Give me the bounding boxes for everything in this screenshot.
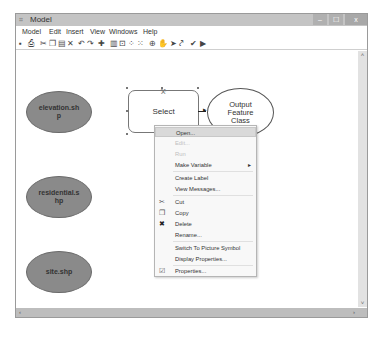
scroll-right-button[interactable]: › xyxy=(353,308,355,317)
model-window: ⌗ Model – ☐ x Model Edit Insert View Win… xyxy=(15,13,368,318)
select-all-icon[interactable]: ⁘ xyxy=(128,38,135,49)
context-menu: Open... Edit... Run Make Variable▸ Creat… xyxy=(154,125,257,277)
tool-hammer-icon: ⚒ xyxy=(160,88,166,96)
select-elements-icon[interactable]: ⁙ xyxy=(137,38,144,49)
delete-icon: ✖ xyxy=(159,220,165,228)
pan-icon[interactable]: ✋ xyxy=(158,38,168,49)
input-residential[interactable]: residential.s hp xyxy=(26,176,92,218)
resize-handle[interactable] xyxy=(126,87,128,89)
auto-layout-icon[interactable]: ▥ xyxy=(110,38,118,49)
full-extent-icon[interactable]: ⊡ xyxy=(119,38,126,49)
undo-icon[interactable]: ↶ xyxy=(78,38,85,49)
menu-item-edit: Edit... xyxy=(155,138,256,148)
minimize-button[interactable]: – xyxy=(313,14,327,25)
menu-item-cut[interactable]: ✂Cut xyxy=(155,197,256,207)
menu-separator xyxy=(173,171,253,172)
menu-item-view-messages[interactable]: View Messages... xyxy=(155,184,256,194)
resize-handle[interactable] xyxy=(126,110,128,112)
menu-item-copy[interactable]: ❐Copy xyxy=(155,208,256,218)
menu-item-run: Run xyxy=(155,149,256,159)
toolbar: ▪ ⎙ ✂ ❐ ▤ ✕ ↶ ↷ ✚ ▥ ⊡ ⁘ ⁙ ⊕ ✋ ➤ ⤤ ✔ ▶ xyxy=(16,38,367,50)
scroll-left-button[interactable]: ‹ xyxy=(19,308,21,317)
properties-icon: ☑ xyxy=(159,267,165,275)
scroll-down-button[interactable]: ˅ xyxy=(358,300,367,306)
select-pointer-icon[interactable]: ➤ xyxy=(170,38,177,49)
horizontal-scrollbar[interactable]: ‹ › xyxy=(16,308,367,317)
maximize-button[interactable]: ☐ xyxy=(329,14,343,25)
menu-edit[interactable]: Edit xyxy=(49,28,61,35)
menu-separator xyxy=(173,241,253,242)
save-icon[interactable]: ▪ xyxy=(19,38,22,49)
copy-icon[interactable]: ❐ xyxy=(49,38,56,49)
menu-separator xyxy=(173,195,253,196)
copy-icon: ❐ xyxy=(159,209,165,217)
menu-item-display-properties[interactable]: Display Properties... xyxy=(155,254,256,264)
close-button[interactable]: x xyxy=(345,14,367,25)
resize-handle[interactable] xyxy=(197,87,199,89)
menu-item-rename[interactable]: Rename... xyxy=(155,230,256,240)
delete-icon[interactable]: ✕ xyxy=(67,38,74,49)
redo-icon[interactable]: ↷ xyxy=(87,38,94,49)
menu-item-open[interactable]: Open... xyxy=(155,127,256,137)
menu-view[interactable]: View xyxy=(90,28,105,35)
window-title: Model xyxy=(30,15,52,24)
menu-item-create-label[interactable]: Create Label xyxy=(155,173,256,183)
add-connection-icon[interactable]: ⤤ xyxy=(179,38,184,49)
scroll-up-button[interactable]: ˄ xyxy=(358,52,367,58)
menu-item-switch-to-picture-symbol[interactable]: Switch To Picture Symbol xyxy=(155,243,256,253)
menu-windows[interactable]: Windows xyxy=(109,28,137,35)
cut-icon[interactable]: ✂ xyxy=(40,38,47,49)
input-site[interactable]: site.shp xyxy=(26,251,92,293)
menu-insert[interactable]: Insert xyxy=(66,28,84,35)
zoom-in-icon[interactable]: ⊕ xyxy=(149,38,156,49)
vertical-scrollbar[interactable]: ˄ ˅ xyxy=(358,51,367,307)
input-elevation[interactable]: elevation.sh p xyxy=(26,91,92,133)
menu-help[interactable]: Help xyxy=(143,28,157,35)
print-icon[interactable]: ⎙ xyxy=(28,38,34,49)
menu-bar: Model Edit Insert View Windows Help xyxy=(16,27,367,37)
title-bar[interactable]: ⌗ Model – ☐ x xyxy=(16,14,367,26)
cut-icon: ✂ xyxy=(159,198,165,206)
validate-icon[interactable]: ✔ xyxy=(190,38,197,49)
model-app-icon: ⌗ xyxy=(19,16,23,24)
paste-icon[interactable]: ▤ xyxy=(58,38,66,49)
menu-item-properties[interactable]: ☑Properties... xyxy=(155,266,256,276)
menu-item-make-variable[interactable]: Make Variable▸ xyxy=(155,160,256,170)
menu-model[interactable]: Model xyxy=(22,28,41,35)
resize-handle[interactable] xyxy=(126,133,128,135)
menu-item-delete[interactable]: ✖Delete xyxy=(155,219,256,229)
submenu-arrow-icon: ▸ xyxy=(248,161,251,168)
run-icon[interactable]: ▶ xyxy=(200,38,206,49)
add-data-icon[interactable]: ✚ xyxy=(98,38,105,49)
